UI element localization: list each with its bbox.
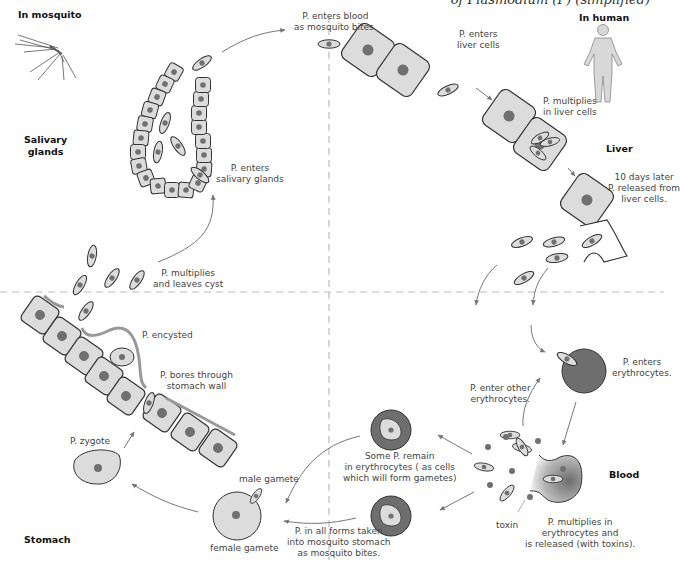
label-zygote: P. zygote	[70, 436, 110, 447]
bursting-erythrocyte	[474, 431, 582, 512]
arrow-merozoite-right	[533, 268, 548, 305]
region-in-mosquito: In mosquito	[18, 9, 82, 21]
sporozoite-biting	[318, 40, 340, 48]
label-enters-blood: P. enters blood as mosquito bites.	[294, 11, 377, 33]
label-encysted: P. encysted	[142, 330, 193, 341]
label-some-remain: Some P. remain in erythrocytes ( as cell…	[343, 451, 456, 484]
arrow-cyst-to-salivary	[158, 195, 213, 262]
arrow-salivary-to-blood	[222, 30, 285, 52]
label-multiplies-leaves-cyst: P. multiplies and leaves cyst	[153, 268, 223, 290]
label-bores-wall: P. bores through stomach wall	[160, 370, 233, 392]
label-released-liver: 10 days later P. released from liver cel…	[608, 172, 680, 205]
region-liver: Liver	[606, 143, 633, 155]
human-figure-icon	[584, 25, 622, 103]
zygote-cell	[74, 450, 121, 484]
label-male-gamete: male gamete	[239, 474, 299, 485]
label-multiplies-erythrocytes: P. multiplies in erythrocytes and is rel…	[525, 517, 635, 550]
gametes	[213, 487, 264, 540]
sporozoites-leaving-cyst	[71, 244, 147, 322]
region-salivary-glands: Salivary glands	[24, 134, 67, 158]
arrow-erythrocyte-down	[563, 402, 576, 445]
label-all-forms: P. in all forms taken into mosquito stom…	[287, 526, 391, 559]
mosquito-icon	[15, 35, 76, 80]
region-stomach: Stomach	[24, 534, 71, 546]
merozoites-released	[510, 232, 603, 287]
label-enter-other: P. enter other erythrocytes.	[470, 383, 531, 405]
arrow-gamete-to-zygote	[132, 484, 198, 512]
label-enters-salivary: P. enters salivary glands	[216, 163, 284, 185]
label-toxin: toxin	[496, 520, 518, 531]
erythrocyte-entered	[555, 349, 606, 393]
salivary-gland-cells	[130, 53, 213, 198]
region-in-human: In human	[579, 12, 629, 24]
liver-cells	[339, 21, 627, 262]
gametocyte-erythrocyte-1	[371, 410, 411, 450]
diagram-title: of Plasmodium (P) (simplified)	[451, 0, 650, 7]
region-blood: Blood	[609, 469, 639, 481]
arrow-to-erythrocyte	[531, 325, 545, 352]
arrow-merozoite-left	[476, 265, 497, 305]
label-female-gamete: female gamete	[210, 543, 278, 554]
label-multiplies-liver: P. multiplies in liver cells	[543, 96, 597, 118]
arrow-liver-1	[476, 88, 492, 100]
arrow-liver-2	[568, 168, 575, 176]
label-enters-erythrocytes: P. enters erythrocytes.	[612, 357, 672, 379]
arrow-zygote-to-wall	[124, 432, 134, 448]
label-enters-liver: P. enters liver cells	[457, 29, 500, 51]
arrow-to-gametocyte-2	[440, 492, 474, 510]
arrow-gametocyte-to-gamete-2	[284, 518, 356, 523]
